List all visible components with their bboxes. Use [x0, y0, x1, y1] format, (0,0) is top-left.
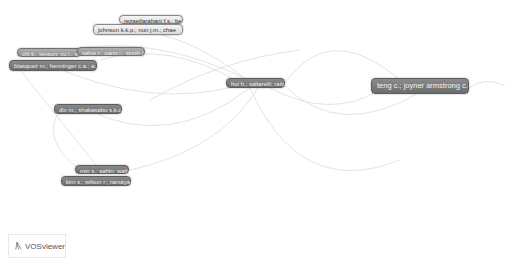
network-node-label[interactable]: johnson k.k.p.; nun j.m.; chae	[93, 24, 183, 35]
vosviewer-logo-icon	[15, 240, 22, 252]
network-node-label[interactable]: dix m.; shakasabu s.k.c.	[54, 104, 122, 114]
network-edge	[20, 70, 100, 170]
network-node-label[interactable]: teng c.; joyner armstrong c.m.	[371, 78, 469, 94]
vosviewer-logo: VOSviewer	[8, 234, 66, 258]
network-node-label[interactable]: chi k.; jenson; yu j.; wei	[17, 48, 81, 57]
network-canvas[interactable]: rezaeifarahani f.s.; bell a.johnson k.k.…	[0, 0, 512, 270]
network-node-label[interactable]: blasquez m.; henninger c.a.; a.	[9, 60, 97, 71]
network-edge	[250, 88, 400, 171]
network-edge	[140, 30, 250, 83]
network-edge	[130, 88, 258, 170]
network-node-label[interactable]: rezaeifarahani f.s.; bell a.	[119, 15, 183, 24]
network-node-label[interactable]: salve r.; gang j.; singh r.	[77, 47, 145, 56]
network-node-label[interactable]: kim s.; wilson r.; ramaya m.	[61, 176, 131, 186]
network-node-label[interactable]: min s.; sahin; watt l.	[75, 165, 129, 174]
logo-text: VOSviewer	[25, 242, 65, 251]
edge-layer	[0, 0, 512, 270]
network-node-label[interactable]: hui h.; saltarelli; ratti	[226, 78, 285, 88]
network-edge	[270, 88, 380, 105]
network-edge	[469, 81, 505, 88]
